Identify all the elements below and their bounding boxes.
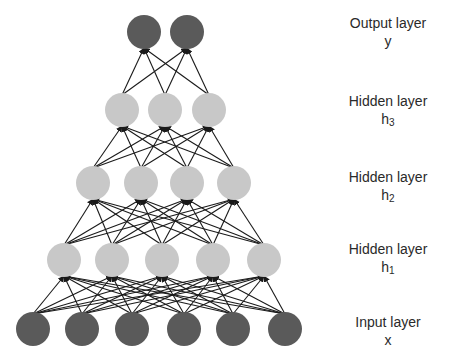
output-node-2 [170,15,204,49]
hidden-layer-2-subscript: 2 [389,193,395,204]
h3-node-1 [105,93,139,127]
edge-input-to-h1 [64,276,184,314]
output-layer-label: Output layer y [323,14,452,50]
output-layer-title: Output layer [323,14,452,32]
hidden-layer-1-title: Hidden layer [323,240,452,258]
edge-h3-to-output [122,48,144,95]
input-layer-title: Input layer [323,313,452,331]
edge-input-to-h1 [64,276,233,314]
output-node-1 [127,15,161,49]
hidden-layer-3-label: Hidden layer h3 [323,92,452,132]
h1-node-5 [247,243,281,277]
h2-node-4 [217,166,251,200]
edge-h1-to-h2 [112,199,141,245]
h1-node-4 [196,243,230,277]
input-node-4 [167,312,201,346]
network-nodes [16,15,302,346]
hidden-layer-1-label: Hidden layer h1 [323,240,452,280]
hidden-layer-3-symbol: h [381,111,389,127]
edge-h1-to-h2 [64,199,187,245]
edge-h1-to-h2 [162,199,187,245]
hidden-layer-1-subscript: 1 [389,265,395,276]
h1-node-3 [145,243,179,277]
input-layer-symbol: x [323,331,452,349]
h1-node-2 [95,243,129,277]
hidden-layer-2-title: Hidden layer [323,168,452,186]
h2-node-3 [170,166,204,200]
h2-node-1 [76,166,110,200]
output-layer-symbol: y [323,32,452,50]
hidden-layer-2-label: Hidden layer h2 [323,168,452,208]
input-node-2 [65,312,99,346]
input-node-5 [216,312,250,346]
h3-node-3 [192,93,226,127]
hidden-layer-1-symbol: h [381,259,389,275]
edge-h2-to-h3 [209,126,234,168]
input-node-3 [115,312,149,346]
edge-h2-to-h3 [93,126,122,168]
hidden-layer-3-title: Hidden layer [323,92,452,110]
input-layer-label: Input layer x [323,313,452,349]
edge-h1-to-h2 [112,199,187,245]
edge-h2-to-h3 [141,126,165,168]
h3-node-2 [148,93,182,127]
edge-h3-to-output [187,48,209,95]
hidden-layer-2-symbol: h [381,187,389,203]
h1-node-1 [47,243,81,277]
input-node-1 [16,312,50,346]
hidden-layer-3-subscript: 3 [389,117,395,128]
input-node-6 [268,312,302,346]
h2-node-2 [124,166,158,200]
edge-h1-to-h2 [93,199,213,245]
